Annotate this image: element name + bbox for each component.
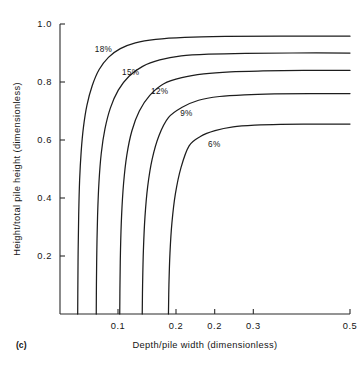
figure-panel-c: 0.20.40.60.81.0 0.10.20.20.30.5 18%15%12… bbox=[0, 0, 363, 380]
y-tick-label: 0.4 bbox=[37, 193, 52, 203]
contour-chart: 0.20.40.60.81.0 0.10.20.20.30.5 18%15%12… bbox=[0, 0, 363, 380]
contour-label-6: 6% bbox=[208, 140, 220, 149]
x-tick-label: 0.3 bbox=[246, 321, 261, 331]
y-tick-label: 1.0 bbox=[37, 19, 52, 29]
y-tick-label: 0.2 bbox=[37, 251, 52, 261]
x-tick-label: 0.2 bbox=[207, 321, 222, 331]
contour-label-12: 12% bbox=[151, 87, 168, 96]
contour-label-9: 9% bbox=[180, 109, 192, 118]
x-tick-label: 0.1 bbox=[111, 321, 126, 331]
contour-label-18: 18% bbox=[95, 45, 112, 54]
y-axis-title: Height/total pile height (dimensionless) bbox=[12, 82, 22, 256]
x-tick-label: 0.5 bbox=[343, 321, 358, 331]
y-tick-label: 0.8 bbox=[37, 77, 52, 87]
y-tick-label: 0.6 bbox=[37, 135, 52, 145]
x-tick-label: 0.2 bbox=[169, 321, 184, 331]
panel-tag: (c) bbox=[16, 340, 27, 350]
x-axis-title: Depth/pile width (dimensionless) bbox=[132, 340, 277, 350]
contour-label-15: 15% bbox=[122, 68, 139, 77]
